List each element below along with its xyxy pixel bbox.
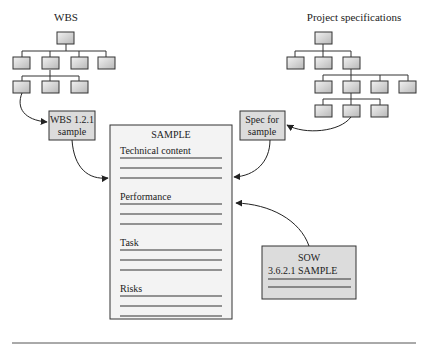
wbs-node — [71, 57, 88, 69]
arrow-wbs-sample-to-document — [72, 140, 108, 178]
spec-sample-line2: sample — [248, 126, 277, 137]
spec-tree: Project specifications — [287, 11, 416, 117]
wbs-node-root — [57, 32, 74, 44]
sow-reference: 3.6.2.1 SAMPLE — [268, 265, 337, 276]
spec-node — [315, 57, 332, 69]
section-risks: Risks — [120, 283, 142, 294]
spec-node — [343, 81, 360, 93]
spec-node — [315, 81, 332, 93]
wbs-sample-line2: sample — [58, 126, 87, 137]
spec-node — [371, 105, 388, 117]
wbs-node — [13, 57, 30, 69]
spec-node — [399, 81, 416, 93]
section-technical-content: Technical content — [120, 145, 191, 156]
sow-box: SOW 3.6.2.1 SAMPLE — [262, 246, 356, 299]
wbs-title: WBS — [54, 11, 78, 23]
spec-node — [371, 81, 388, 93]
spec-sample-box: Spec for sample — [240, 111, 285, 140]
wbs-node — [42, 57, 59, 69]
wbs-node — [42, 81, 59, 93]
wbs-node — [71, 81, 88, 93]
spec-sample-line1: Spec for — [245, 114, 279, 125]
wbs-sample-box: WBS 1.2.1 sample — [49, 111, 95, 140]
wbs-node-1-2-1 — [13, 81, 30, 93]
spec-node-root — [315, 32, 332, 44]
spec-node-sample — [343, 105, 360, 117]
section-task: Task — [120, 237, 139, 248]
spec-node — [315, 105, 332, 117]
section-performance: Performance — [120, 191, 172, 202]
wbs-tree: WBS — [13, 11, 115, 93]
arrow-wbs-node-to-sample — [20, 93, 47, 122]
arrow-sow-to-document — [236, 203, 309, 246]
wbs-to-sow-diagram: WBS Project specifications — [0, 0, 428, 345]
sample-document-title: SAMPLE — [151, 129, 190, 140]
spec-title: Project specifications — [307, 11, 401, 23]
arrow-spec-node-to-sample — [287, 117, 351, 131]
wbs-node — [98, 57, 115, 69]
spec-node — [343, 57, 360, 69]
sample-document: SAMPLE Technical content Performance Tas… — [110, 125, 232, 319]
arrow-spec-sample-to-document — [234, 140, 270, 177]
wbs-sample-line1: WBS 1.2.1 — [50, 114, 94, 125]
sow-title: SOW — [298, 252, 321, 263]
spec-node — [287, 57, 304, 69]
